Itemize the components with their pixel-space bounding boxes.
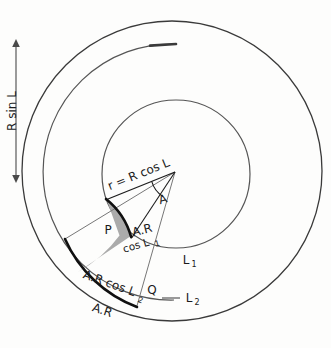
arrow-head-up-icon — [12, 39, 20, 47]
diagram-canvas: R sin L r = R cos L A P A.R — [0, 0, 331, 348]
label-middle-arc-sub: 2 — [136, 295, 144, 305]
arrow-head-down-icon — [12, 175, 20, 183]
label-point-q: Q — [147, 283, 156, 297]
label-point-p: P — [104, 223, 111, 237]
label-radius-r: r = R cos L — [106, 155, 172, 193]
label-middle-arc-group: A.R cos L 2 — [80, 267, 147, 305]
label-middle-arc: A.R cos L — [81, 267, 137, 299]
label-circle-l1-sub: 1 — [191, 260, 196, 269]
middle-circle-terminus — [150, 44, 176, 46]
label-circle-l2-group: L 2 — [186, 291, 200, 307]
label-outer-arc: A.R — [90, 300, 114, 320]
label-circle-l2-sub: 2 — [194, 298, 199, 307]
outer-circle — [22, 21, 322, 321]
label-circle-l1-group: L 1 — [183, 253, 197, 269]
geometry-diagram: R sin L r = R cos L A P A.R — [0, 0, 331, 348]
axis-label-r-sin-l: R sin L — [5, 91, 19, 131]
label-inner-arc-line2-sub: 1 — [154, 239, 161, 249]
label-circle-l2: L — [186, 291, 193, 305]
label-circle-l1: L — [183, 253, 190, 267]
